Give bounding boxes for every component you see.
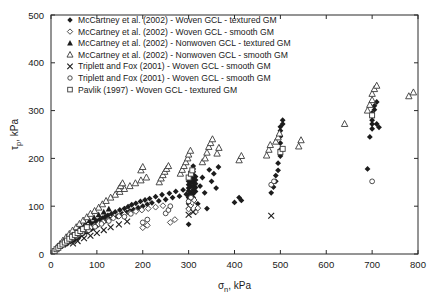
legend-label: McCartney et al. (2002) - Woven GCL - te… (78, 15, 277, 25)
legend-label: Triplett and Fox (2001) - Woven GCL - sm… (78, 73, 271, 83)
series-3 (54, 82, 416, 249)
series-6 (52, 113, 374, 254)
scatter-chart-figure: 0100200300400500600700800010020030040050… (0, 0, 444, 302)
svg-text:600: 600 (318, 259, 334, 270)
svg-text:500: 500 (28, 10, 44, 21)
legend-label: McCartney et al. (2002) - Woven GCL - sm… (78, 27, 274, 37)
x-axis-title: σn, kPa (218, 280, 252, 294)
legend-item: McCartney et al. (2002) - Nonwoven GCL -… (67, 38, 291, 48)
svg-text:100: 100 (28, 201, 44, 212)
svg-text:200: 200 (28, 153, 44, 164)
svg-text:300: 300 (28, 105, 44, 116)
legend-label: McCartney et al. (2002) - Nonwoven GCL -… (78, 50, 288, 60)
series-4 (70, 209, 274, 246)
svg-text:100: 100 (89, 259, 105, 270)
legend-item: McCartney et al. (2002) - Woven GCL - te… (67, 15, 276, 25)
legend-item: McCartney et al. (2002) - Nonwoven GCL -… (67, 50, 288, 60)
legend-item: McCartney et al. (2002) - Woven GCL - sm… (67, 27, 274, 37)
legend-label: Pavlik (1997) - Woven GCL - textured GM (78, 85, 237, 95)
chart-svg: 0100200300400500600700800010020030040050… (0, 0, 444, 302)
y-axis-title: τp, kPa (9, 119, 23, 150)
svg-text:400: 400 (28, 57, 44, 68)
legend-item: Triplett and Fox (2001) - Woven GCL - sm… (67, 61, 270, 71)
svg-text:300: 300 (181, 259, 197, 270)
legend-item: Pavlik (1997) - Woven GCL - textured GM (68, 85, 237, 95)
legend-item: Triplett and Fox (2001) - Woven GCL - sm… (68, 73, 271, 83)
data-points-layer (52, 82, 416, 253)
svg-text:700: 700 (364, 259, 380, 270)
svg-text:400: 400 (227, 259, 243, 270)
legend-label: McCartney et al. (2002) - Nonwoven GCL -… (78, 38, 291, 48)
svg-text:0: 0 (39, 249, 44, 260)
svg-text:800: 800 (410, 259, 426, 270)
svg-text:200: 200 (135, 259, 151, 270)
svg-text:500: 500 (272, 259, 288, 270)
chart-legend: McCartney et al. (2002) - Woven GCL - te… (67, 15, 291, 95)
svg-text:0: 0 (48, 259, 53, 270)
series-0 (53, 99, 382, 253)
legend-label: Triplett and Fox (2001) - Woven GCL - sm… (78, 61, 271, 71)
